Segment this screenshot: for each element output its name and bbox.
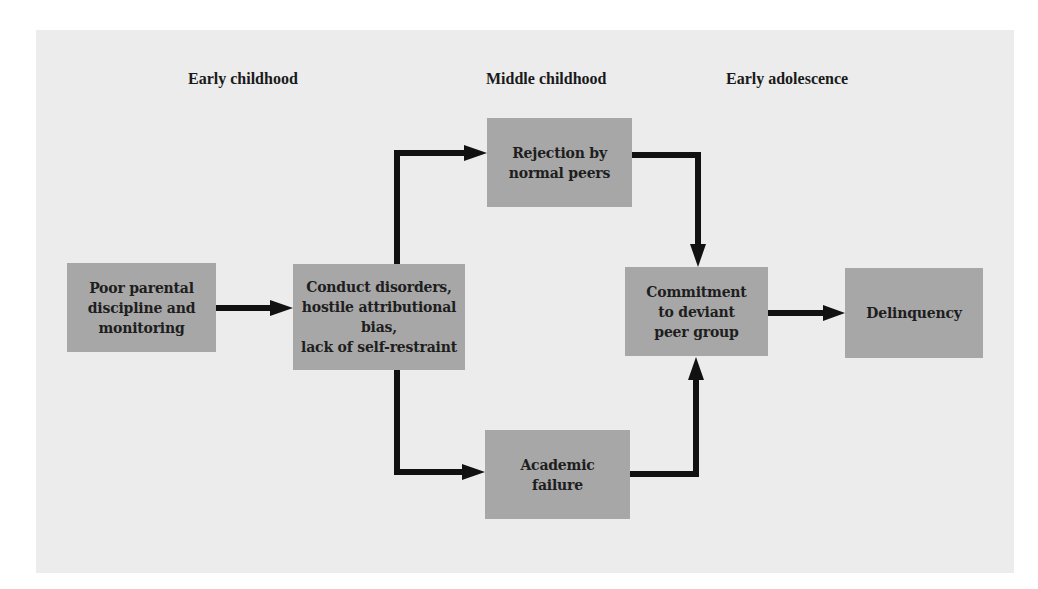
node-rejection-by-peers: Rejection by normal peers	[487, 118, 632, 207]
node-poor-parental-discipline: Poor parental discipline and monitoring	[67, 263, 216, 352]
arrowhead-icon	[270, 300, 293, 316]
node-label: Conduct disorders, hostile attributional…	[301, 277, 457, 357]
arrow-academic-to-commitment	[630, 378, 696, 474]
node-delinquency: Delinquency	[845, 268, 983, 358]
node-commitment-deviant-peers: Commitment to deviant peer group	[625, 267, 768, 356]
node-label: Academic failure	[520, 455, 594, 495]
node-academic-failure: Academic failure	[485, 430, 630, 519]
arrowhead-icon	[823, 305, 845, 321]
node-label: Delinquency	[866, 303, 961, 323]
node-label: Rejection by normal peers	[509, 143, 610, 183]
arrow-rejection-to-commitment	[632, 155, 698, 246]
arrowhead-icon	[462, 464, 485, 480]
arrowhead-icon	[690, 244, 706, 267]
node-label: Commitment to deviant peer group	[646, 282, 746, 342]
arrowhead-icon	[688, 357, 704, 380]
node-conduct-disorders: Conduct disorders, hostile attributional…	[293, 264, 465, 370]
arrowhead-icon	[464, 145, 487, 161]
arrow-conduct-to-academic	[397, 370, 464, 472]
arrow-conduct-to-rejection	[397, 153, 466, 264]
node-label: Poor parental discipline and monitoring	[88, 278, 195, 338]
